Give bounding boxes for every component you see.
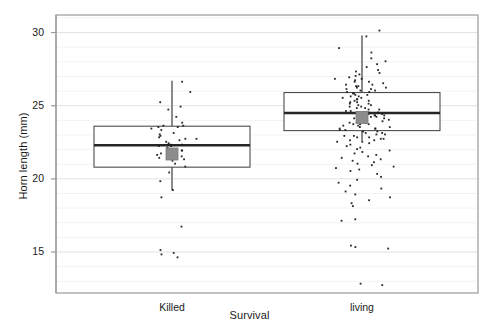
data-point [382,82,384,84]
x-axis-title: Survival [0,309,499,321]
data-point [366,66,368,68]
data-point [356,98,358,100]
data-point [355,71,357,73]
data-point [184,166,186,168]
data-point [354,153,356,155]
data-point [381,132,383,134]
data-point [385,60,387,62]
data-point [374,90,376,92]
data-point [379,72,381,74]
data-point [350,170,352,172]
data-point [362,131,364,133]
data-point [376,134,378,136]
data-point [380,176,382,178]
data-point [352,123,354,125]
data-point [159,101,161,103]
data-point [370,116,372,118]
y-tick-label-20: 20 [14,172,44,184]
y-axis-title: Horn length (mm) [17,96,29,216]
data-point [342,97,344,99]
data-point [368,199,370,201]
x-category-label-living: living [302,301,422,313]
data-point [349,185,351,187]
data-point [376,173,378,175]
data-point [175,116,177,118]
data-point [165,141,167,143]
data-point [168,142,170,144]
data-point [360,90,362,92]
data-point [388,119,390,121]
data-point [345,191,347,193]
y-tick-label-25: 25 [14,99,44,111]
data-point [160,129,162,131]
data-point [341,157,343,159]
data-point [355,75,357,77]
data-point [179,139,181,141]
data-point [161,253,163,255]
data-point [177,126,179,128]
data-point [371,84,373,86]
boxplot-figure: Horn length (mm) Survival 30 25 20 15 Ki… [0,0,499,333]
data-point [352,160,354,162]
data-point [384,134,386,136]
data-point [382,120,384,122]
data-point [359,126,361,128]
data-point [387,248,389,250]
data-point [354,94,356,96]
data-point [357,163,359,165]
data-point [158,145,160,147]
data-point [189,91,191,93]
data-point [356,148,358,150]
data-point [380,188,382,190]
data-point [349,139,351,141]
data-point [377,69,379,71]
data-point [368,81,370,83]
data-point [338,47,340,49]
data-point [376,131,378,133]
data-point [346,88,348,90]
data-point [367,155,369,157]
data-point [346,145,348,147]
data-point [368,100,370,102]
plot-canvas [0,0,499,333]
data-point [348,76,350,78]
data-point [383,114,385,116]
data-point [376,116,378,118]
data-point [346,91,348,93]
data-point [370,52,372,54]
mean-marker [356,111,368,123]
data-point [380,158,382,160]
data-point [160,153,162,155]
data-point [174,163,176,165]
data-point [163,125,165,127]
data-point [359,147,361,149]
data-point [389,126,391,128]
data-point [336,141,338,143]
data-point [345,110,347,112]
data-point [370,57,372,59]
data-point [349,103,351,105]
data-point [184,138,186,140]
data-point [181,155,183,157]
data-point [350,245,352,247]
data-point [196,138,198,140]
data-point [352,205,354,207]
data-point [365,35,367,37]
data-point [368,91,370,93]
data-point [343,135,345,137]
data-point [167,109,169,111]
y-tick-label-15: 15 [14,245,44,257]
data-point [368,109,370,111]
data-point [355,246,357,248]
data-point [158,157,160,159]
data-point [354,100,356,102]
data-point [173,252,175,254]
data-point [374,114,376,116]
data-point [356,179,358,181]
data-point [356,136,358,138]
data-point [358,95,360,97]
data-point [368,142,370,144]
data-point [334,78,336,80]
data-point [158,136,160,138]
data-point [341,220,343,222]
